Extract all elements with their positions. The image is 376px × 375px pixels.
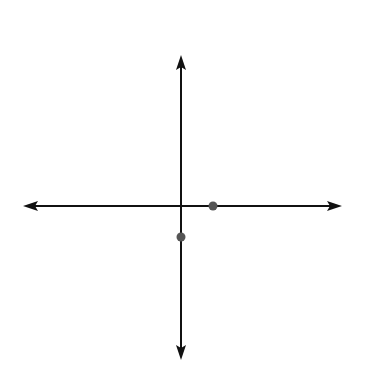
curve (177, 202, 218, 242)
point-0-neg1 (177, 233, 186, 242)
axes (23, 55, 342, 360)
point-1-0 (209, 202, 218, 211)
graph (0, 0, 376, 375)
